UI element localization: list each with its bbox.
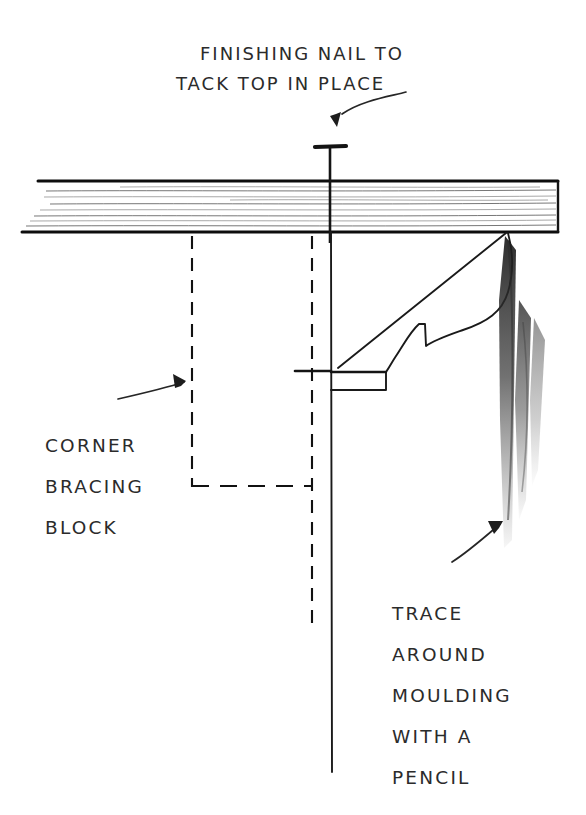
corner-bracing-block-note: CORNER BRACING BLOCK	[45, 435, 144, 538]
wood-grain-hatching	[26, 187, 556, 226]
finishing-nail-note: FINISHING NAIL TO TACK TOP IN PLACE	[175, 43, 404, 94]
finishing-nail	[315, 146, 346, 243]
trace-note-line-4: WITH A	[392, 726, 473, 747]
arrow-to-moulding-shading-icon	[452, 521, 503, 562]
block-note-line-3: BLOCK	[45, 517, 118, 538]
table-top-board	[22, 181, 558, 232]
corner-bracing-block-outline	[192, 236, 312, 632]
arrow-to-bracing-block-icon	[118, 374, 186, 399]
crown-moulding-profile	[295, 233, 512, 390]
trace-note-line-5: PENCIL	[392, 767, 471, 788]
trace-note-line-1: TRACE	[391, 603, 463, 624]
trace-note-line-2: AROUND	[392, 644, 487, 665]
sketch-canvas: FINISHING NAIL TO TACK TOP IN PLACE CORN…	[0, 0, 586, 815]
trace-around-moulding-note: TRACE AROUND MOULDING WITH A PENCIL	[391, 603, 512, 788]
figure-svg: FINISHING NAIL TO TACK TOP IN PLACE CORN…	[0, 0, 586, 815]
table-leg-edge	[331, 232, 332, 772]
trace-note-line-3: MOULDING	[392, 685, 512, 706]
nail-note-line-1: FINISHING NAIL TO	[200, 43, 404, 64]
block-note-line-1: CORNER	[45, 435, 137, 456]
arrow-to-nail-icon	[330, 92, 406, 127]
nail-note-line-2: TACK TOP IN PLACE	[175, 73, 385, 94]
block-note-line-2: BRACING	[45, 476, 144, 497]
pencil-shadow-smudge	[499, 236, 545, 548]
